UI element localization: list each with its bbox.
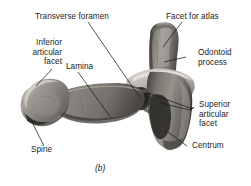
odontoid-process-shape	[149, 22, 178, 72]
label-lamina: Lamina	[66, 62, 93, 72]
label-spine: Spine	[31, 145, 52, 155]
label-superior-articular-facet: Superior articular facet	[199, 100, 230, 129]
label-centrum: Centrum	[192, 141, 224, 151]
figure-caption: (b)	[95, 163, 105, 173]
anatomical-figure: Transverse foramen Facet for atlas Infer…	[0, 0, 251, 186]
label-inferior-articular-facet: Inferior articular facet	[0, 38, 62, 67]
label-odontoid-process: Odontoid process	[198, 48, 232, 67]
spinous-process-shape	[21, 79, 70, 126]
centrum-shape	[147, 72, 193, 151]
vertebra-illustration	[0, 0, 251, 186]
label-transverse-foramen: Transverse foramen	[35, 12, 109, 22]
label-facet-for-atlas: Facet for atlas	[166, 12, 219, 22]
